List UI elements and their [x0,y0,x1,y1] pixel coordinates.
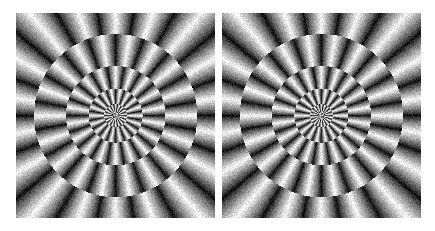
illusion-canvas-left [16,13,215,218]
illusion-figure-root [0,0,435,231]
illusion-panel-right [222,13,421,218]
illusion-panel-left [16,13,215,218]
illusion-canvas-right [222,13,421,218]
